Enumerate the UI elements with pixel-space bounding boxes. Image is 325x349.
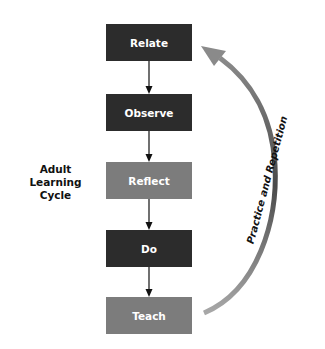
arrowhead-icon: [201, 46, 226, 66]
down-arrow: [146, 61, 153, 297]
connectors: [0, 0, 325, 349]
